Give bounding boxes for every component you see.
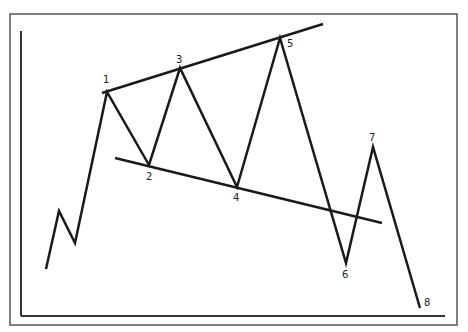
point-label-3: 3	[176, 54, 182, 65]
background	[0, 0, 468, 332]
point-label-6: 6	[342, 269, 348, 280]
point-label-5: 5	[287, 38, 293, 49]
wave-pattern-diagram: 12345678	[0, 0, 468, 332]
point-label-7: 7	[369, 132, 375, 143]
point-label-1: 1	[103, 74, 109, 85]
point-label-4: 4	[233, 192, 239, 203]
point-label-2: 2	[146, 171, 152, 182]
point-label-8: 8	[424, 297, 430, 308]
